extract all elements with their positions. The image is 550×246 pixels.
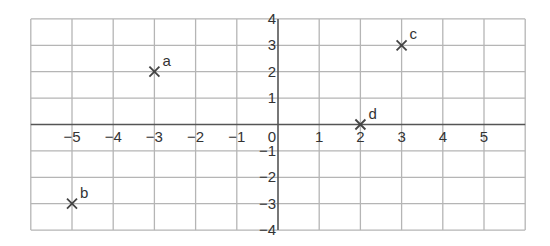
x-tick-label: −5: [63, 128, 80, 145]
x-tick-label: −2: [187, 128, 204, 145]
x-tick-label: −4: [105, 128, 122, 145]
x-tick-label: 5: [480, 128, 488, 145]
axes: [31, 19, 525, 230]
y-tick-label: −2: [259, 168, 276, 185]
coordinate-grid-chart: −5−4−3−2−10123454321−1−2−3−4 abcd: [0, 0, 550, 246]
y-tick-label: 1: [268, 89, 276, 106]
x-tick-label: −1: [228, 128, 245, 145]
x-tick-label: 2: [356, 128, 364, 145]
point-label: d: [368, 105, 376, 122]
point-label: a: [162, 52, 171, 69]
y-tick-label: 4: [268, 10, 276, 27]
data-point-c: c: [397, 25, 418, 50]
data-points: abcd: [67, 25, 418, 208]
y-tick-label: −3: [259, 195, 276, 212]
y-tick-label: 2: [268, 63, 276, 80]
x-tick-label: 3: [397, 128, 405, 145]
y-tick-label: −4: [259, 221, 276, 238]
x-tick-label: 4: [439, 128, 447, 145]
y-tick-label: −1: [259, 142, 276, 159]
data-point-a: a: [149, 52, 171, 77]
x-tick-label: 1: [315, 128, 323, 145]
x-tick-label: −3: [146, 128, 163, 145]
point-label: c: [410, 25, 418, 42]
point-label: b: [80, 184, 88, 201]
y-tick-label: 3: [268, 36, 276, 53]
data-point-b: b: [67, 184, 88, 209]
data-point-d: d: [355, 105, 376, 130]
